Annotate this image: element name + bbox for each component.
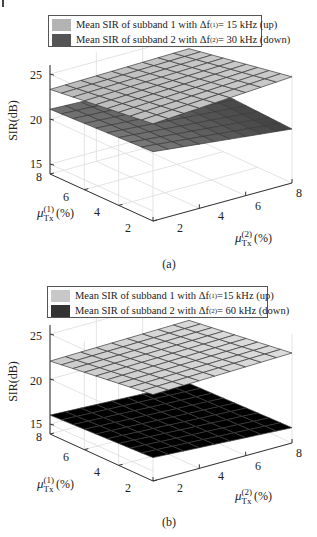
caption-a: (a): [149, 257, 189, 272]
z-tick-20-b: 20: [30, 374, 42, 389]
z-axis-label-b: SIR(dB): [6, 361, 21, 402]
legend-b-item-2: Mean SIR of subband 2 with Δf(2) = 60 kH…: [51, 303, 264, 318]
mu2-tick-2-b: 2: [177, 481, 183, 496]
mu1-axis-label-a: μ(1)Tx(%): [37, 205, 74, 223]
mu2-axis-label-a: μ(2)Tx(%): [235, 230, 272, 248]
mu1-tick-2-a: 2: [125, 221, 131, 236]
mu2-tick-4-b: 4: [218, 469, 224, 484]
mu1-tick-8-a: 8: [36, 170, 42, 185]
mu1-tick-4-b: 4: [94, 465, 100, 480]
mu1-tick-6-b: 6: [63, 450, 69, 465]
legend-swatch: [51, 290, 70, 302]
legend-swatch: [52, 19, 71, 31]
legend-a-item-2: Mean SIR of subband 2 with Δf(2) = 30 kH…: [52, 32, 258, 47]
mu2-axis-label-b: μ(2)Tx(%): [235, 488, 272, 506]
mu2-tick-6-a: 6: [255, 199, 261, 214]
caption-b: (b): [149, 515, 189, 530]
legend-a: Mean SIR of subband 1 with Δf(1) = 15 kH…: [48, 15, 262, 47]
legend-swatch: [52, 34, 71, 46]
mu2-tick-8-a: 8: [296, 186, 302, 201]
mu1-tick-2-b: 2: [125, 481, 131, 496]
mu1-axis-label-b: μ(1)Tx(%): [37, 476, 74, 494]
z-tick-20-a: 20: [30, 113, 42, 128]
legend-swatch: [51, 305, 70, 317]
legend-a-item-1: Mean SIR of subband 1 with Δf(1) = 15 kH…: [52, 17, 258, 32]
legend-b-item-1: Mean SIR of subband 1 with Δf(1) =15 kHz…: [51, 288, 264, 303]
mu2-tick-4-a: 4: [218, 209, 224, 224]
mu1-tick-8-b: 8: [36, 430, 42, 445]
z-axis-label-a: SIR(dB): [6, 100, 21, 141]
z-tick-25-b: 25: [30, 329, 42, 344]
mu1-tick-4-a: 4: [94, 205, 100, 220]
legend-b: Mean SIR of subband 1 with Δf(1) =15 kHz…: [47, 286, 268, 318]
mu2-tick-2-a: 2: [177, 221, 183, 236]
mu1-tick-6-a: 6: [63, 190, 69, 205]
z-tick-25-a: 25: [30, 68, 42, 83]
mu2-tick-8-b: 8: [296, 446, 302, 461]
mu2-tick-6-b: 6: [255, 459, 261, 474]
